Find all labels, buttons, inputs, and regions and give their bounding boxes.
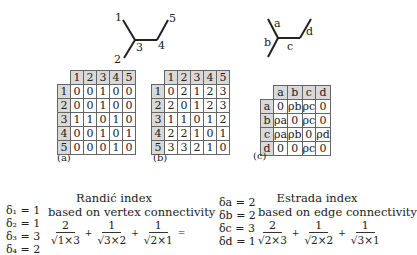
cell: 1 xyxy=(71,113,84,127)
row-header: 3 xyxy=(58,113,71,127)
cell: ρd xyxy=(316,128,331,142)
col-header: 4 xyxy=(110,71,123,85)
edge-label-d: d xyxy=(306,26,313,37)
cell: 0 xyxy=(84,99,97,113)
cell: 1 xyxy=(217,127,230,141)
cell: 1 xyxy=(191,99,204,113)
cell: 1 xyxy=(204,141,217,155)
row-header: 4 xyxy=(152,127,165,141)
col-header: d xyxy=(316,86,331,100)
cell: 0 xyxy=(84,85,97,99)
cell: 0 xyxy=(123,99,136,113)
cell: 0 xyxy=(123,141,136,155)
plus-sign: + xyxy=(131,228,139,238)
cell: 0 xyxy=(84,127,97,141)
row-header: 1 xyxy=(152,85,165,99)
col-header: 3 xyxy=(97,71,110,85)
estrada-title-line2: based on edge connectivity xyxy=(258,205,376,219)
cell: ρc xyxy=(302,100,316,114)
cell: 1 xyxy=(110,113,123,127)
cell: 0 xyxy=(123,85,136,99)
fraction: 2 √2×3 xyxy=(258,219,287,247)
col-header: 1 xyxy=(71,71,84,85)
cell: 1 xyxy=(191,85,204,99)
cell: 0 xyxy=(71,127,84,141)
cell: 0 xyxy=(84,141,97,155)
cell: 0 xyxy=(110,99,123,113)
matrix-row: b ρa 0 ρc 0 xyxy=(261,114,331,128)
randic-title-line1: Randić index xyxy=(48,191,180,205)
fraction: 1 √3×1 xyxy=(351,219,380,247)
edge-adjacency-matrix: a b c d a 0 ρb ρc 0 b ρa 0 ρc 0 c ρa ρb … xyxy=(260,85,331,156)
cell: 0 xyxy=(316,114,331,128)
cell: 0 xyxy=(97,141,110,155)
cell: 1 xyxy=(123,127,136,141)
row-header: 4 xyxy=(58,127,71,141)
cell: ρa xyxy=(274,128,288,142)
cell: 3 xyxy=(217,99,230,113)
cell: 1 xyxy=(84,113,97,127)
cell: 1 xyxy=(165,113,178,127)
col-header: 2 xyxy=(84,71,97,85)
matrix-row: 2 0 0 1 0 0 xyxy=(58,99,136,113)
cell: 0 xyxy=(97,113,110,127)
edge-label-a: a xyxy=(274,18,281,29)
cell: 2 xyxy=(165,127,178,141)
cell: 1 xyxy=(204,113,217,127)
cell: 0 xyxy=(165,85,178,99)
delta-c: δc = 3 xyxy=(219,222,256,235)
cell: 2 xyxy=(178,85,191,99)
cell: ρb xyxy=(288,100,303,114)
fraction: 2 √1×3 xyxy=(51,219,80,247)
matrix-row: 1 0 2 1 2 3 xyxy=(152,85,230,99)
cell: 0 xyxy=(217,141,230,155)
delta-d: δd = 1 xyxy=(219,235,256,248)
corner-blank xyxy=(261,86,274,100)
row-header: 2 xyxy=(58,99,71,113)
cell: 0 xyxy=(178,99,191,113)
col-header: 1 xyxy=(165,71,178,85)
cell: 1 xyxy=(97,127,110,141)
cell: 0 xyxy=(288,142,303,156)
delta-1: δ₁ = 1 xyxy=(6,204,40,217)
cell: ρb xyxy=(288,128,303,142)
cell: 1 xyxy=(110,141,123,155)
matrix-row: a 0 ρb ρc 0 xyxy=(261,100,331,114)
fraction: 1 √3×2 xyxy=(97,219,126,247)
caption-b: (b) xyxy=(153,152,167,163)
cell: 0 xyxy=(191,113,204,127)
adjacency-matrix: 1 2 3 4 5 1 0 0 1 0 0 2 0 0 1 0 0 3 1 1 … xyxy=(57,70,136,155)
estrada-title: Estrada index based on edge connectivity xyxy=(258,191,376,219)
cell: 0 xyxy=(204,127,217,141)
fraction: 1 √2×1 xyxy=(144,219,173,247)
estrada-deltas: δa = 2 δb = 2 δc = 3 δd = 1 xyxy=(219,196,256,248)
cell: 0 xyxy=(110,85,123,99)
row-header: 1 xyxy=(58,85,71,99)
cell: 2 xyxy=(217,113,230,127)
cell: ρc xyxy=(302,142,316,156)
row-header: a xyxy=(261,100,274,114)
matrix-row: 3 1 1 0 1 2 xyxy=(152,113,230,127)
cell: 2 xyxy=(165,99,178,113)
cell: 0 xyxy=(71,99,84,113)
distance-matrix: 1 2 3 4 5 1 0 2 1 2 3 2 2 0 1 2 3 3 1 1 … xyxy=(151,70,230,155)
estrada-title-line1: Estrada index xyxy=(258,191,376,205)
col-header: 4 xyxy=(204,71,217,85)
randic-deltas: δ₁ = 1 δ₂ = 1 δ₃ = 3 δ₄ = 2 xyxy=(6,204,40,255)
cell: 0 xyxy=(71,141,84,155)
caption-a: (a) xyxy=(57,152,71,163)
equals-sign: = xyxy=(178,228,186,238)
cell: 0 xyxy=(316,100,331,114)
delta-b: δb = 2 xyxy=(219,209,256,222)
delta-a: δa = 2 xyxy=(219,196,256,209)
matrix-row: d 0 0 ρc 0 xyxy=(261,142,331,156)
plus-sign: + xyxy=(292,228,300,238)
randic-title-line2: based on vertex connectivity xyxy=(48,205,180,219)
cell: 0 xyxy=(274,100,288,114)
cell: 1 xyxy=(97,85,110,99)
corner-blank xyxy=(58,71,71,85)
cell: 3 xyxy=(217,85,230,99)
cell: 3 xyxy=(178,141,191,155)
cell: 0 xyxy=(288,114,303,128)
col-header: 3 xyxy=(191,71,204,85)
